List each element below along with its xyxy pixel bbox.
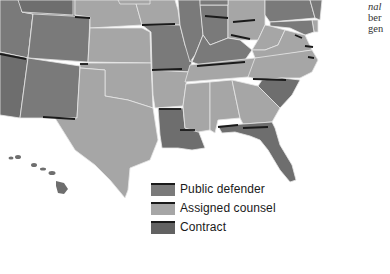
state-minnesota-edge (118, 0, 150, 4)
legend-swatch-assigned-counsel (151, 202, 175, 215)
side-text-line: nal (368, 1, 383, 12)
legend-item-public-defender: Public defender (151, 180, 276, 198)
legend-swatch-public-defender (151, 183, 175, 196)
state-michigan-edge (200, 0, 228, 5)
legend-label: Public defender (180, 182, 265, 196)
map-legend: Public defender Assigned counsel Contrac… (151, 180, 276, 237)
state-colorado (28, 14, 90, 62)
state-mississippi (183, 82, 210, 132)
legend-label: Contract (180, 220, 226, 234)
side-text-line: ber (368, 12, 383, 23)
side-body-text-fragment: nal ber gen (368, 1, 383, 34)
legend-swatch-contract (151, 221, 175, 234)
legend-item-contract: Contract (151, 218, 276, 236)
state-kansas (88, 28, 151, 63)
legend-item-assigned-counsel: Assigned counsel (151, 199, 276, 217)
state-pennsylvania (265, 0, 315, 22)
legend-label: Assigned counsel (180, 201, 276, 215)
side-text-line: gen (368, 23, 383, 34)
hawaii-islands (9, 155, 69, 194)
state-new-mexico (20, 58, 80, 118)
